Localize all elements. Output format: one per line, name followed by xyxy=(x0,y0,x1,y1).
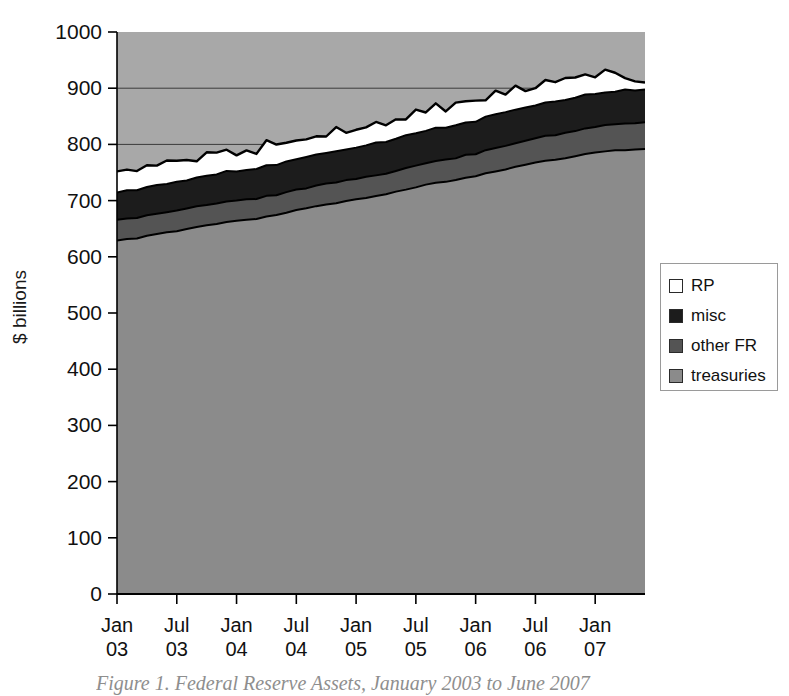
y-tick-label: 800 xyxy=(30,133,102,154)
legend-swatch-other-fr xyxy=(669,339,683,353)
y-tick-label: 500 xyxy=(30,302,102,323)
legend-label-other-fr: other FR xyxy=(691,336,757,356)
legend-label-misc: misc xyxy=(691,306,726,326)
legend-swatch-treasuries xyxy=(669,369,683,383)
y-tick-label: 400 xyxy=(30,358,102,379)
y-tick-label: 100 xyxy=(30,527,102,548)
y-tick-label: 900 xyxy=(30,77,102,98)
legend-swatch-misc xyxy=(669,309,683,323)
legend: RP misc other FR treasuries xyxy=(660,263,778,391)
figure-container: $ billions 01002003004005006007008009001… xyxy=(0,0,789,696)
legend-item-rp: RP xyxy=(669,271,771,301)
y-tick-label: 0 xyxy=(30,583,102,604)
x-tick-year: 07 xyxy=(560,638,630,662)
legend-item-other-fr: other FR xyxy=(669,331,771,361)
y-axis-ticks xyxy=(108,32,117,594)
legend-swatch-rp xyxy=(669,279,683,293)
y-tick-label: 700 xyxy=(30,190,102,211)
legend-label-rp: RP xyxy=(691,276,715,296)
legend-item-misc: misc xyxy=(669,301,771,331)
x-axis-ticks xyxy=(117,594,595,604)
y-tick-label: 300 xyxy=(30,414,102,435)
x-tick-label: Jan07 xyxy=(560,614,630,661)
y-tick-label: 200 xyxy=(30,471,102,492)
legend-label-treasuries: treasuries xyxy=(691,366,766,386)
legend-item-treasuries: treasuries xyxy=(669,361,771,391)
y-tick-label: 1000 xyxy=(30,21,102,42)
x-tick-month: Jan xyxy=(560,614,630,638)
y-tick-label: 600 xyxy=(30,246,102,267)
figure-caption: Figure 1. Federal Reserve Assets, Januar… xyxy=(96,672,736,696)
